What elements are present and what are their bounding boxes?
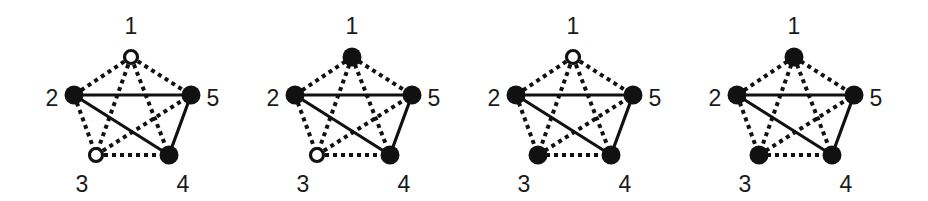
node-label-3: 3 (518, 171, 531, 197)
dashed-edge-1-5 (131, 57, 191, 95)
node-1-filled (785, 48, 804, 67)
figure-stage: 12345123451234512345 (0, 0, 928, 201)
node-label-2: 2 (488, 85, 501, 111)
dashed-edge-2-3 (516, 95, 538, 155)
dashed-edge-1-4 (573, 57, 611, 155)
node-label-1: 1 (346, 13, 359, 39)
node-5-filled (182, 86, 201, 105)
node-2-filled (728, 86, 747, 105)
graph-figure: 12345123451234512345 (0, 0, 928, 201)
graph-4: 12345 (709, 13, 883, 197)
node-4-filled (823, 146, 842, 165)
dashed-edge-3-5 (96, 95, 191, 155)
node-1-open (567, 51, 580, 64)
node-label-3: 3 (76, 171, 89, 197)
dashed-edge-2-3 (295, 95, 317, 155)
node-label-3: 3 (739, 171, 752, 197)
node-label-5: 5 (428, 85, 441, 111)
node-label-4: 4 (398, 171, 411, 197)
dashed-edge-1-5 (794, 57, 854, 95)
node-5-filled (845, 86, 864, 105)
node-4-filled (381, 146, 400, 165)
graph-2: 12345 (267, 13, 441, 197)
node-label-2: 2 (46, 85, 59, 111)
node-5-filled (624, 86, 643, 105)
node-label-5: 5 (870, 85, 883, 111)
node-label-1: 1 (567, 13, 580, 39)
dashed-edge-1-4 (352, 57, 390, 155)
dashed-edge-3-5 (538, 95, 633, 155)
node-1-filled (343, 48, 362, 67)
dashed-edge-1-3 (96, 57, 131, 155)
graph-3: 12345 (488, 13, 662, 197)
node-label-2: 2 (709, 85, 722, 111)
node-3-filled (750, 146, 769, 165)
solid-edge-2-4 (737, 95, 832, 155)
node-3-open (90, 149, 103, 162)
node-2-filled (65, 86, 84, 105)
dashed-edge-1-2 (74, 57, 131, 95)
node-3-filled (529, 146, 548, 165)
node-label-3: 3 (297, 171, 310, 197)
dashed-edge-1-5 (352, 57, 412, 95)
dashed-edge-1-4 (131, 57, 169, 155)
node-4-filled (160, 146, 179, 165)
node-label-2: 2 (267, 85, 280, 111)
node-label-5: 5 (207, 85, 220, 111)
node-label-4: 4 (177, 171, 190, 197)
graph-1: 12345 (46, 13, 220, 197)
dashed-edge-1-2 (737, 57, 794, 95)
dashed-edge-3-5 (759, 95, 854, 155)
solid-edge-2-4 (295, 95, 390, 155)
node-5-filled (403, 86, 422, 105)
dashed-edge-1-3 (317, 57, 352, 155)
dashed-edge-1-3 (759, 57, 794, 155)
dashed-edge-1-4 (794, 57, 832, 155)
node-2-filled (507, 86, 526, 105)
dashed-edge-1-3 (538, 57, 573, 155)
dashed-edge-1-2 (516, 57, 573, 95)
node-1-open (125, 51, 138, 64)
node-label-4: 4 (619, 171, 632, 197)
dashed-edge-1-2 (295, 57, 352, 95)
node-4-filled (602, 146, 621, 165)
node-2-filled (286, 86, 305, 105)
node-label-5: 5 (649, 85, 662, 111)
dashed-edge-2-3 (74, 95, 96, 155)
node-label-1: 1 (125, 13, 138, 39)
solid-edge-2-4 (74, 95, 169, 155)
dashed-edge-1-5 (573, 57, 633, 95)
node-3-open (311, 149, 324, 162)
node-label-4: 4 (840, 171, 853, 197)
node-label-1: 1 (788, 13, 801, 39)
solid-edge-2-4 (516, 95, 611, 155)
dashed-edge-2-3 (737, 95, 759, 155)
dashed-edge-3-5 (317, 95, 412, 155)
